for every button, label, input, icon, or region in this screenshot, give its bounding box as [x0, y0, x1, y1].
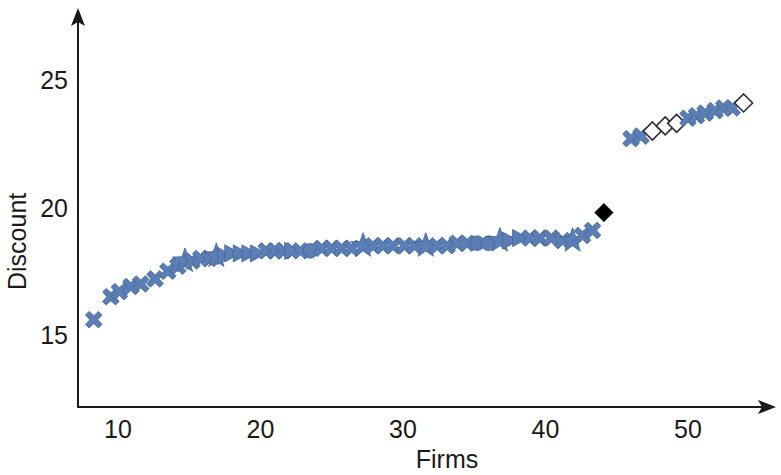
data-point-diamond — [595, 204, 613, 222]
x-tick-label: 30 — [389, 415, 417, 443]
data-point-layer — [86, 94, 753, 328]
y-tick-labels: 152025 — [40, 66, 68, 349]
data-point-x — [147, 271, 164, 288]
x-axis-title: Firms — [416, 445, 478, 473]
x-tick-label: 40 — [532, 415, 560, 443]
y-tick-label: 25 — [40, 66, 68, 94]
y-tick-label: 15 — [40, 321, 68, 349]
x-tick-label: 10 — [104, 415, 132, 443]
chart-page: 152025 1020304050 Discount Firms — [0, 0, 781, 475]
x-axis — [78, 400, 776, 414]
y-axis — [71, 8, 85, 408]
x-tick-label: 50 — [674, 415, 702, 443]
data-point-x — [86, 311, 103, 328]
x-tick-label: 20 — [247, 415, 275, 443]
y-axis-title: Discount — [3, 193, 31, 290]
y-tick-label: 20 — [40, 194, 68, 222]
scatter-plot: 152025 1020304050 Discount Firms — [0, 0, 781, 475]
x-tick-labels: 1020304050 — [104, 415, 702, 443]
